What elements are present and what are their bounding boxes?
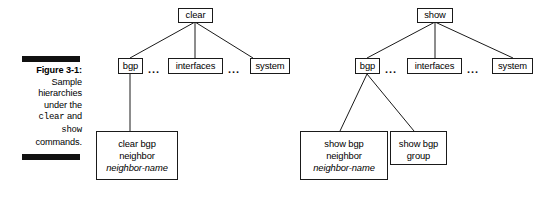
figure-container: Figure 3-1: Sample hierarchies under the… — [0, 0, 550, 200]
node-show-bgp: bgp — [355, 58, 380, 74]
node-clear-system: system — [250, 58, 290, 74]
ellipsis-right-2: ... — [467, 64, 479, 75]
leaf-line-1: show bgp — [399, 138, 438, 150]
leaf-line-3-variable: neighbor-name — [106, 162, 168, 174]
leaf-line-1: clear bgp — [106, 138, 168, 150]
node-show-bgp-group-leaf: show bgp group — [390, 131, 447, 165]
leaf-line-2: group — [399, 150, 438, 162]
ellipsis-left-1: ... — [148, 64, 160, 75]
node-clear-bgp: bgp — [118, 58, 143, 74]
leaf-line-2: neighbor — [106, 150, 168, 162]
node-show-bgp-neighbor-leaf: show bgp neighbor neighbor-name — [300, 131, 388, 180]
node-clear-bgp-neighbor-leaf: clear bgp neighbor neighbor-name — [96, 131, 178, 180]
node-show-system: system — [492, 58, 533, 74]
node-show-root: show — [417, 8, 453, 23]
ellipsis-right-1: ... — [385, 64, 397, 75]
node-show-interfaces: interfaces — [407, 58, 462, 74]
tree-connector-lines — [0, 0, 550, 200]
leaf-line-1: show bgp — [313, 138, 375, 150]
leaf-line-2: neighbor — [313, 150, 375, 162]
leaf-line-3-variable: neighbor-name — [313, 162, 375, 174]
ellipsis-left-2: ... — [228, 64, 240, 75]
node-clear-root: clear — [178, 8, 213, 23]
node-clear-interfaces: interfaces — [168, 58, 223, 74]
